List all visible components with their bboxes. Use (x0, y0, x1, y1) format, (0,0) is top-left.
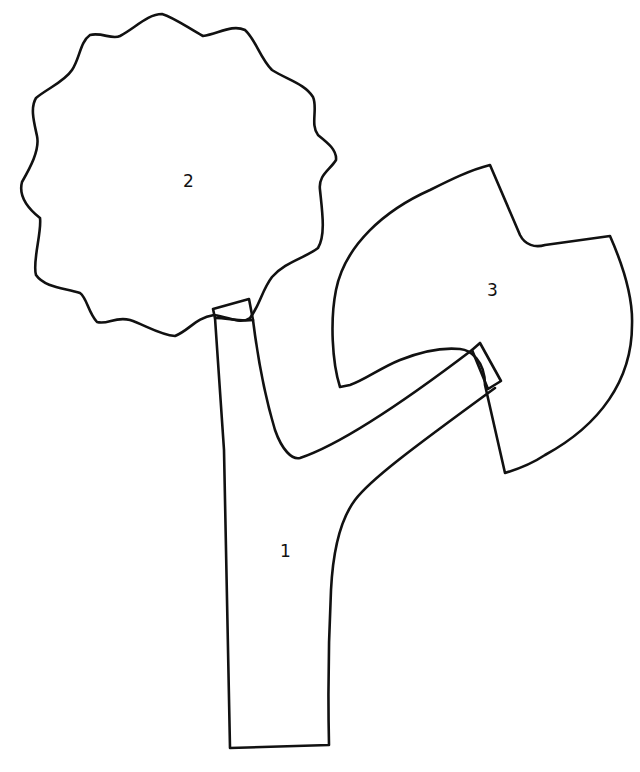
trunk-top-tab (213, 299, 253, 321)
piece-3-label: 3 (487, 280, 498, 300)
tree-pattern-diagram: 1 2 3 (0, 0, 640, 772)
piece-2-cloud-crown (21, 14, 336, 336)
piece-3-notched-crown (333, 165, 633, 473)
branch-end-tab (472, 343, 501, 389)
piece-2-label: 2 (183, 171, 194, 191)
piece-1-label: 1 (280, 541, 291, 561)
